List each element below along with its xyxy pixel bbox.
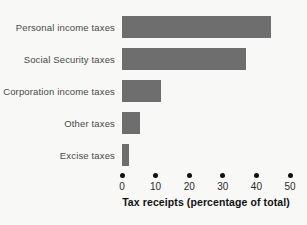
bar-row: Excise taxes [0, 144, 307, 166]
bar-chart: Personal income taxes Social Security ta… [0, 0, 307, 225]
bar-corporation-income-taxes [122, 80, 161, 102]
category-label: Personal income taxes [16, 22, 115, 33]
category-label: Excise taxes [60, 150, 115, 161]
bar-excise-taxes [122, 144, 129, 166]
bar-row: Other taxes [0, 112, 307, 134]
tick-dot-icon [254, 173, 259, 178]
bar-row: Corporation income taxes [0, 80, 307, 102]
bar-personal-income-taxes [122, 16, 271, 38]
bar-social-security-taxes [122, 48, 246, 70]
x-tick-label: 50 [270, 181, 307, 192]
tick-dot-icon [288, 173, 293, 178]
tick-dot-icon [220, 173, 225, 178]
category-label: Other taxes [64, 118, 115, 129]
category-label: Corporation income taxes [3, 86, 115, 97]
bar-other-taxes [122, 112, 140, 134]
category-label: Social Security taxes [24, 54, 115, 65]
x-axis-title: Tax receipts (percentage of total) [122, 196, 290, 208]
bar-row: Personal income taxes [0, 16, 307, 38]
tick-dot-icon [153, 173, 158, 178]
tick-dot-icon [120, 173, 125, 178]
bar-row: Social Security taxes [0, 48, 307, 70]
tick-dot-icon [187, 173, 192, 178]
